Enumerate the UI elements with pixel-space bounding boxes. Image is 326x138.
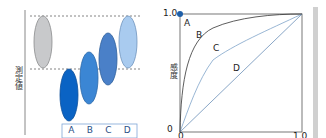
category-d: D bbox=[124, 125, 131, 135]
y-tick-top: 1.0 bbox=[163, 8, 177, 18]
overlap-diagram: 測定値 A B C D bbox=[0, 0, 160, 138]
label-c: C bbox=[213, 43, 219, 53]
ellipse-d bbox=[119, 16, 137, 68]
category-labels: A B C D bbox=[62, 125, 137, 135]
category-b: B bbox=[87, 125, 93, 135]
ellipse-b bbox=[80, 52, 98, 104]
category-a: A bbox=[68, 125, 74, 135]
left-ylabel: 測定値 bbox=[14, 66, 22, 90]
shadow bbox=[313, 7, 318, 138]
x-tick-left: 0 bbox=[178, 131, 184, 138]
label-a: A bbox=[184, 18, 190, 28]
point-a bbox=[177, 11, 183, 17]
right-ylabel: 感度 bbox=[169, 63, 177, 79]
roc-chart: 1.0 0 0 1.0 感度 A B C D bbox=[163, 0, 326, 138]
ellipse-a bbox=[60, 69, 78, 121]
label-b: B bbox=[196, 30, 202, 40]
category-c: C bbox=[105, 125, 111, 135]
y-tick-bottom: 0 bbox=[167, 124, 173, 134]
reference-ellipse bbox=[34, 16, 52, 68]
label-d: D bbox=[233, 63, 240, 73]
x-tick-right: 1.0 bbox=[293, 131, 307, 138]
ellipse-c bbox=[99, 33, 117, 85]
